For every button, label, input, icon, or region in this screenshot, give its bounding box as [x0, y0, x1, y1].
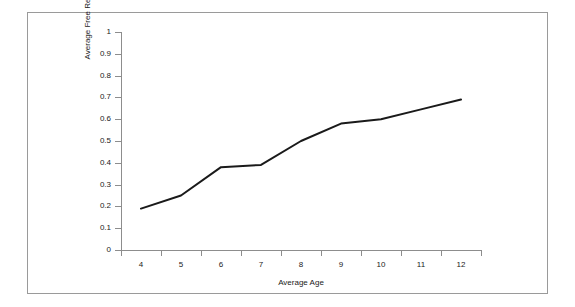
x-axis-title: Average Age: [121, 277, 481, 288]
plot-area: 00.10.20.30.40.50.60.70.80.91 4567891011…: [0, 0, 575, 307]
series-polyline: [141, 100, 461, 209]
y-axis-title: Average Free Recall: [83, 0, 93, 88]
figure: 00.10.20.30.40.50.60.70.80.91 4567891011…: [0, 0, 575, 307]
